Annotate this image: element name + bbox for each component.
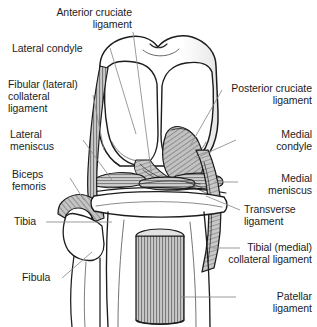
label-lateral-meniscus: Lateral meniscus [10, 128, 90, 152]
label-anterior-cruciate-ligament: Anterior cruciate ligament [8, 6, 132, 30]
label-fibula: Fibula [22, 271, 76, 283]
label-medial-condyle: Medial condyle [228, 128, 312, 152]
patellar-ligament-shape [136, 229, 184, 325]
lateral-meniscus-shape [93, 173, 146, 188]
label-fibular-collateral-ligament: Fibular (lateral) collateral ligament [8, 78, 118, 115]
label-lateral-condyle: Lateral condyle [12, 42, 132, 54]
label-transverse-ligament: Transverse ligament [244, 203, 317, 227]
label-patellar-ligament: Patellar ligament [228, 290, 312, 314]
label-biceps-femoris: Biceps femoris [12, 168, 82, 192]
label-tibia: Tibia [14, 215, 64, 227]
knee-anatomy-figure: Anterior cruciate ligament Lateral condy… [0, 0, 317, 327]
label-posterior-cruciate-ligament: Posterior cruciate ligament [190, 82, 312, 106]
label-tibial-collateral-ligament: Tibial (medial) collateral ligament [188, 241, 312, 265]
label-medial-meniscus: Medial meniscus [228, 172, 312, 196]
